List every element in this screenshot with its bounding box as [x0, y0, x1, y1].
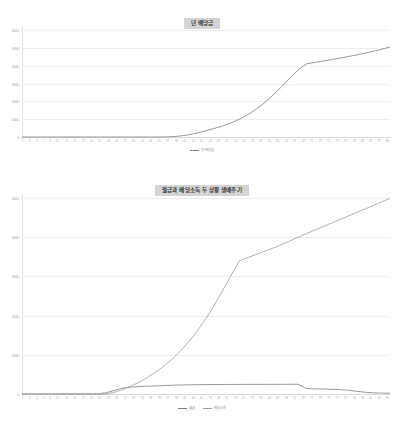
legend-item[interactable]: 년 배당금	[190, 148, 214, 153]
x-axis-tick-label: 87	[378, 139, 381, 143]
x-axis-tick-label: 63	[276, 139, 279, 143]
x-axis-tick-label: 51	[226, 396, 229, 400]
x-axis-tick-label: 45	[200, 139, 203, 143]
x-axis-tick-label: 9	[49, 396, 51, 400]
x-axis-tick-label: 49	[217, 139, 220, 143]
x-axis-tick-label: 35	[158, 139, 161, 143]
x-axis-tick-label: 45	[200, 396, 203, 400]
x-axis-tick-label: 59	[259, 396, 262, 400]
x-axis-tick-label: 75	[327, 139, 330, 143]
x-axis-tick-label: 5	[36, 139, 38, 143]
x-axis-tick-label: 19	[90, 396, 93, 400]
y-axis-tick-label: 2000	[12, 100, 19, 104]
chart-2-plot-area: 010002000300040005000 135791113151719212…	[22, 198, 390, 394]
x-axis-tick-label: 47	[209, 139, 212, 143]
x-axis-tick-label: 67	[293, 139, 296, 143]
x-axis-tick-label: 53	[234, 139, 237, 143]
x-axis-tick-label: 11	[56, 139, 59, 143]
x-axis-tick-label: 79	[344, 139, 347, 143]
legend-line-icon	[190, 150, 199, 151]
x-axis-tick-label: 59	[259, 139, 262, 143]
legend-label: 배당소득	[214, 406, 226, 411]
x-axis-tick-label: 65	[285, 139, 288, 143]
x-axis-tick-label: 3	[29, 396, 31, 400]
x-axis-tick-label: 79	[344, 396, 347, 400]
x-axis-tick-label: 57	[251, 396, 254, 400]
chart-2-series-layer	[22, 198, 390, 394]
chart-1-title-wrap: 년 배당금	[0, 11, 404, 29]
x-axis-tick-label: 39	[175, 396, 178, 400]
x-axis-tick-label: 15	[73, 396, 76, 400]
x-axis-tick-label: 77	[336, 139, 339, 143]
y-axis-tick-label: 1000	[12, 118, 19, 122]
y-axis-tick-label: 6000	[12, 29, 19, 33]
x-axis-tick-label: 55	[242, 139, 245, 143]
x-axis-tick-label: 73	[319, 396, 322, 400]
chart-2-title: 월급과 배당소득 두 상황 생애주기	[155, 185, 249, 196]
y-axis-tick-label: 2000	[12, 315, 19, 319]
x-axis-tick-label: 75	[327, 396, 330, 400]
x-axis-tick-label: 51	[226, 139, 229, 143]
y-axis-tick-label: 0	[17, 393, 19, 397]
x-axis-tick-label: 15	[73, 139, 76, 143]
chart-1-plot-area: 0100020003000400050006000 13579111315171…	[22, 30, 390, 137]
x-axis-tick-label: 23	[107, 396, 110, 400]
x-axis-tick-label: 25	[115, 396, 118, 400]
x-axis-tick-label: 3	[29, 139, 31, 143]
x-axis-tick-label: 47	[209, 396, 212, 400]
x-axis-tick-label: 49	[217, 396, 220, 400]
y-axis-tick-label: 1000	[12, 354, 19, 358]
x-axis-tick-label: 85	[370, 139, 373, 143]
x-axis-tick-label: 31	[141, 139, 144, 143]
x-axis-tick-label: 13	[65, 396, 68, 400]
y-axis-tick-label: 4000	[12, 65, 19, 69]
x-axis-tick-label: 61	[268, 139, 271, 143]
x-axis-tick-label: 1	[22, 396, 24, 400]
x-axis-tick-label: 33	[149, 396, 152, 400]
y-axis-tick-label: 3000	[12, 275, 19, 279]
x-axis-tick-label: 21	[99, 139, 102, 143]
x-axis-tick-label: 43	[192, 396, 195, 400]
x-axis-tick-label: 55	[242, 396, 245, 400]
x-axis-tick-label: 77	[336, 396, 339, 400]
chart-2-title-wrap: 월급과 배당소득 두 상황 생애주기	[0, 178, 404, 196]
x-axis-tick-label: 37	[166, 139, 169, 143]
x-axis-tick-label: 89	[386, 396, 389, 400]
legend-item[interactable]: 배당소득	[203, 406, 226, 411]
x-axis-tick-label: 7	[43, 396, 45, 400]
x-axis-tick-label: 7	[43, 139, 45, 143]
x-axis-tick-label: 17	[82, 396, 85, 400]
x-axis-tick-label: 87	[378, 396, 381, 400]
x-axis-tick-label: 27	[124, 139, 127, 143]
series-line	[22, 47, 390, 137]
chart-2-x-axis: 1357911131517192123252729313335373941434…	[22, 396, 390, 400]
x-axis-tick-label: 13	[65, 139, 68, 143]
legend-label: 월급	[189, 406, 195, 411]
chart-1-title: 년 배당금	[184, 18, 221, 29]
x-axis-tick-label: 21	[99, 396, 102, 400]
x-axis-tick-label: 1	[22, 139, 24, 143]
legend-item[interactable]: 월급	[178, 406, 195, 411]
x-axis-tick-label: 17	[82, 139, 85, 143]
series-line	[22, 384, 390, 394]
x-axis-tick-label: 69	[302, 139, 305, 143]
x-axis-tick-label: 53	[234, 396, 237, 400]
legend-line-icon	[178, 408, 187, 409]
x-axis-tick-label: 41	[183, 396, 186, 400]
x-axis-tick-label: 61	[268, 396, 271, 400]
x-axis-tick-label: 73	[319, 139, 322, 143]
x-axis-tick-label: 83	[361, 139, 364, 143]
chart-page: 년 배당금 0100020003000400050006000 13579111…	[0, 0, 404, 433]
series-line	[22, 198, 390, 394]
x-axis-tick-label: 65	[285, 396, 288, 400]
x-axis-tick-label: 25	[115, 139, 118, 143]
x-axis-tick-label: 81	[353, 139, 356, 143]
y-axis-tick-label: 5000	[12, 197, 19, 201]
x-axis-tick-label: 67	[293, 396, 296, 400]
y-axis-tick-label: 4000	[12, 236, 19, 240]
x-axis-tick-label: 81	[353, 396, 356, 400]
x-axis-tick-label: 29	[132, 396, 135, 400]
x-axis-tick-label: 29	[132, 139, 135, 143]
chart-1-series-layer	[22, 30, 390, 137]
y-axis-tick-label: 3000	[12, 83, 19, 87]
